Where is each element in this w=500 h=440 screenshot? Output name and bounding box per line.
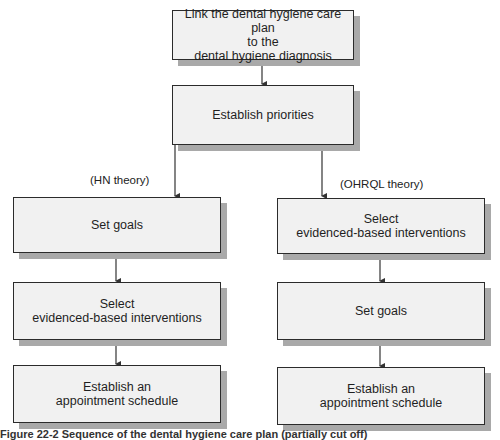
box-text-line: to the <box>173 35 353 49</box>
left-appointment-schedule-box: Establish an appointment schedule <box>13 365 221 423</box>
right-set-goals-box: Set goals <box>277 282 485 340</box>
box-text-line: Set goals <box>91 218 143 232</box>
box-text-line: appointment schedule <box>56 394 178 408</box>
hn-theory-label: (HN theory) <box>90 174 149 186</box>
box-text-line: Establish priorities <box>212 108 313 122</box>
box-text-line: Establish an <box>320 382 442 396</box>
box-text-line: Set goals <box>355 304 407 318</box>
box-text-line: Establish an <box>56 380 178 394</box>
box-text-line: dental hygiene diagnosis <box>173 49 353 63</box>
box-text-line: evidenced-based interventions <box>32 311 202 325</box>
box-text-line: appointment schedule <box>320 396 442 410</box>
link-care-plan-box: Link the dental hygiene care plan to the… <box>172 10 354 60</box>
figure-caption: Figure 22-2 Sequence of the dental hygie… <box>0 428 367 440</box>
ohrql-theory-label: (OHRQL theory) <box>340 178 423 190</box>
box-text-line: Link the dental hygiene care plan <box>173 7 353 35</box>
right-appointment-schedule-box: Establish an appointment schedule <box>277 367 485 425</box>
right-select-interventions-box: Select evidenced-based interventions <box>277 198 485 254</box>
left-set-goals-box: Set goals <box>13 197 221 253</box>
box-text-line: Select <box>296 212 466 226</box>
box-text-line: Select <box>32 297 202 311</box>
establish-priorities-box: Establish priorities <box>172 85 354 145</box>
left-select-interventions-box: Select evidenced-based interventions <box>13 282 221 340</box>
box-text-line: evidenced-based interventions <box>296 226 466 240</box>
